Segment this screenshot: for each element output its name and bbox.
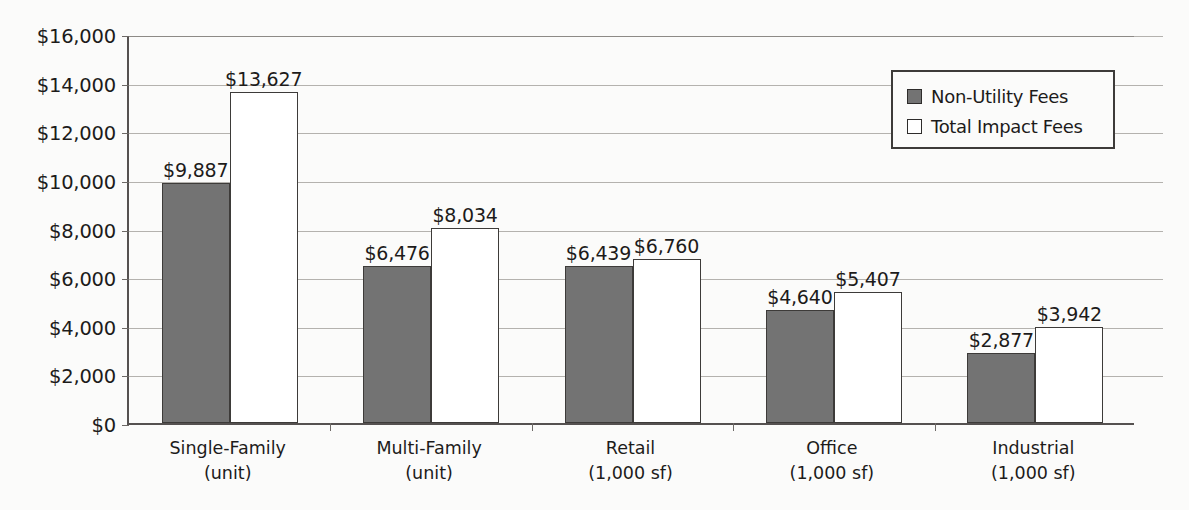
bar-value-label: $6,760 <box>634 235 699 257</box>
bar-office-total-impact-fees: $5,407 <box>834 292 902 423</box>
y-axis-label: $6,000 <box>49 268 116 291</box>
bar-value-label: $6,439 <box>566 242 631 264</box>
bar-multi-family-non-utility-fees: $6,476 <box>363 266 431 423</box>
category-name: Office <box>806 438 857 458</box>
category-name: Industrial <box>992 438 1074 458</box>
bar-value-label: $3,942 <box>1037 303 1102 325</box>
legend-item-non-utility-fees: Non-Utility Fees <box>907 81 1113 111</box>
bar-retail-total-impact-fees: $6,760 <box>633 259 701 423</box>
y-axis-tick <box>122 376 129 377</box>
x-axis-category-label: Single-Family(unit) <box>127 436 328 486</box>
y-axis-tick <box>122 279 129 280</box>
y-axis-label: $14,000 <box>37 73 116 96</box>
category-unit: (unit) <box>127 461 328 486</box>
gridline-extension <box>1134 36 1163 37</box>
chart-legend: Non-Utility Fees Total Impact Fees <box>891 70 1115 149</box>
bar-single-family-non-utility-fees: $9,887 <box>162 183 230 423</box>
y-axis-label: $8,000 <box>49 219 116 242</box>
bar-value-label: $6,476 <box>364 242 429 264</box>
bar-value-label: $5,407 <box>835 268 900 290</box>
category-unit: (1,000 sf) <box>731 461 932 486</box>
y-axis-label: $4,000 <box>49 316 116 339</box>
category-name: Single-Family <box>169 438 285 458</box>
y-axis-label: $2,000 <box>49 365 116 388</box>
bar-office-non-utility-fees: $4,640 <box>766 310 834 423</box>
bar-industrial-non-utility-fees: $2,877 <box>967 353 1035 423</box>
gridline-extension <box>1134 231 1163 232</box>
gridline-extension <box>1134 85 1163 86</box>
gridline-extension <box>1134 376 1163 377</box>
y-axis-tick <box>122 425 129 426</box>
x-axis-category-label: Industrial(1,000 sf) <box>933 436 1134 486</box>
y-axis-tick <box>122 328 129 329</box>
bar-value-label: $2,877 <box>969 329 1034 351</box>
y-axis-tick <box>122 133 129 134</box>
legend-item-total-impact-fees: Total Impact Fees <box>907 111 1113 141</box>
y-axis-label: $0 <box>92 414 116 437</box>
gridline-extension <box>1134 328 1163 329</box>
bar-value-label: $8,034 <box>432 204 497 226</box>
legend-label-non-utility-fees: Non-Utility Fees <box>931 86 1068 107</box>
gridline-extension <box>1134 133 1163 134</box>
x-axis-tick <box>330 423 331 431</box>
bar-multi-family-total-impact-fees: $8,034 <box>431 228 499 423</box>
bar-single-family-total-impact-fees: $13,627 <box>230 92 298 423</box>
y-axis-tick <box>122 182 129 183</box>
y-axis-tick <box>122 85 129 86</box>
y-axis-label: $12,000 <box>37 122 116 145</box>
x-axis-tick <box>733 423 734 431</box>
x-axis-category-label: Multi-Family(unit) <box>328 436 529 486</box>
category-name: Multi-Family <box>376 438 481 458</box>
bar-industrial-total-impact-fees: $3,942 <box>1035 327 1103 423</box>
bar-value-label: $9,887 <box>163 159 228 181</box>
legend-swatch-icon-non-utility-fees <box>907 89 922 104</box>
bar-chart: $9,887$13,627$6,476$8,034$6,439$6,760$4,… <box>0 0 1189 510</box>
x-axis-tick <box>935 423 936 431</box>
x-axis-category-label: Office(1,000 sf) <box>731 436 932 486</box>
gridline <box>129 36 1136 37</box>
bar-retail-non-utility-fees: $6,439 <box>565 266 633 423</box>
bar-value-label: $4,640 <box>767 286 832 308</box>
y-axis-tick <box>122 231 129 232</box>
x-axis-tick <box>532 423 533 431</box>
category-unit: (1,000 sf) <box>530 461 731 486</box>
legend-label-total-impact-fees: Total Impact Fees <box>931 116 1083 137</box>
y-axis-label: $16,000 <box>37 25 116 48</box>
category-unit: (unit) <box>328 461 529 486</box>
bar-value-label: $13,627 <box>225 68 302 90</box>
gridline-extension <box>1134 279 1163 280</box>
category-unit: (1,000 sf) <box>933 461 1134 486</box>
y-axis-tick <box>122 36 129 37</box>
y-axis-label: $10,000 <box>37 170 116 193</box>
legend-swatch-icon-total-impact-fees <box>907 119 922 134</box>
x-axis-category-label: Retail(1,000 sf) <box>530 436 731 486</box>
category-name: Retail <box>606 438 655 458</box>
gridline-extension <box>1134 182 1163 183</box>
